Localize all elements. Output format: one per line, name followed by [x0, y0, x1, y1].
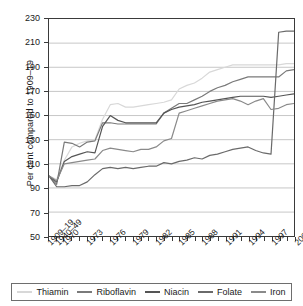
series-line-thiamin: [49, 64, 294, 180]
y-tick-label: 130: [0, 135, 40, 144]
x-tick-mark: [79, 237, 80, 241]
nutrient-trend-chart: Per cent compared to 1909–19 23021019017…: [0, 0, 303, 306]
legend-label: Iron: [270, 288, 286, 297]
x-tick-mark: [172, 237, 173, 241]
x-tick-mark: [102, 237, 103, 241]
y-tick-label: 70: [0, 208, 40, 217]
series-line-riboflavin: [49, 70, 294, 185]
x-tick-mark: [218, 237, 219, 241]
legend-label: Folate: [217, 288, 242, 297]
legend-item-riboflavin[interactable]: Riboflavin: [77, 288, 136, 297]
plot-area: [48, 18, 295, 237]
y-tick-label: 50: [0, 233, 40, 242]
legend-item-iron[interactable]: Iron: [251, 288, 286, 297]
chart-legend: ThiaminRiboflavinNiacinFolateIron: [11, 283, 292, 301]
legend-line-icon: [77, 291, 92, 293]
legend-label: Niacin: [164, 288, 189, 297]
legend-item-thiamin[interactable]: Thiamin: [17, 288, 68, 297]
x-axis-ticks: 1909–191940–4919701973197619791982198519…: [48, 237, 295, 283]
legend-label: Thiamin: [36, 288, 68, 297]
y-tick-label: 170: [0, 87, 40, 96]
x-tick-mark: [264, 237, 265, 241]
series-line-iron: [49, 99, 294, 181]
x-tick-mark: [148, 237, 149, 241]
x-tick-mark: [287, 237, 288, 241]
x-tick-mark: [241, 237, 242, 241]
legend-line-icon: [145, 291, 160, 293]
x-tick-mark: [125, 237, 126, 241]
y-axis-ticks: 230210190170150130110907050: [0, 18, 44, 237]
y-tick-label: 190: [0, 62, 40, 71]
legend-line-icon: [198, 291, 213, 293]
series-lines: [49, 19, 294, 236]
y-tick-label: 150: [0, 111, 40, 120]
legend-line-icon: [251, 291, 266, 293]
y-tick-label: 210: [0, 38, 40, 47]
y-tick-label: 110: [0, 160, 40, 169]
legend-line-icon: [17, 291, 32, 293]
x-tick-mark: [195, 237, 196, 241]
legend-item-folate[interactable]: Folate: [198, 288, 242, 297]
y-tick-label: 230: [0, 14, 40, 23]
y-tick-label: 90: [0, 184, 40, 193]
legend-item-niacin[interactable]: Niacin: [145, 288, 189, 297]
legend-label: Riboflavin: [96, 288, 136, 297]
